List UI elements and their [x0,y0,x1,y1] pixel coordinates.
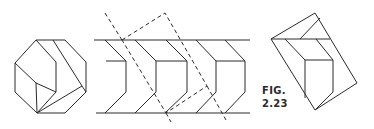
figure-label-prefix: FIG. [262,84,288,97]
octagon-outline [15,40,86,113]
octagon-panel [15,40,86,113]
dashed-rectangle [122,13,207,113]
strip-panel [94,13,250,122]
figure-number: 2.23 [262,97,288,110]
figure-caption: FIG. 2.23 [262,84,288,110]
figure-canvas [0,0,374,129]
inner-hexagon [15,40,56,92]
